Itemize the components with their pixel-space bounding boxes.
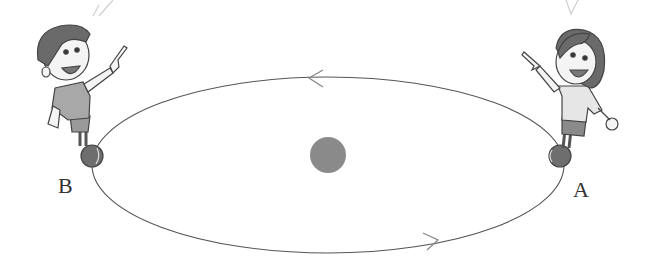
point-label-a: A [573,177,589,202]
speech-tail-left [93,0,113,16]
boy-character [37,25,127,167]
ball-under-boy [81,145,103,167]
ball-under-girl [549,145,571,167]
girl-character [522,29,618,167]
speech-tail-right [566,0,578,14]
arrow-left-icon [309,70,323,87]
orbit-diagram: B A [0,0,656,261]
sun [310,137,346,173]
arrow-right-icon [423,233,438,250]
point-label-b: B [58,173,73,198]
